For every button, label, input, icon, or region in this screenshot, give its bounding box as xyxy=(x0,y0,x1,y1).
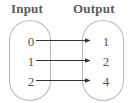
input-set-oval: 0 1 2 xyxy=(9,20,51,101)
input-item-2: 2 xyxy=(24,75,38,88)
mapping-diagram: Input Output 0 1 2 1 2 4 xyxy=(0,0,134,103)
input-item-1: 1 xyxy=(24,55,38,68)
input-column-label: Input xyxy=(11,1,43,17)
output-column-label: Output xyxy=(73,1,115,17)
output-item-0: 1 xyxy=(99,35,113,48)
input-item-0: 0 xyxy=(24,35,38,48)
output-item-1: 2 xyxy=(99,55,113,68)
output-set-oval: 1 2 4 xyxy=(82,20,124,101)
output-item-2: 4 xyxy=(99,75,113,88)
